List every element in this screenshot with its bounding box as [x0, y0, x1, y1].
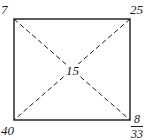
label-bottom-left: 40 — [1, 124, 14, 137]
label-center: 15 — [66, 64, 79, 77]
fraction-denominator: 33 — [131, 127, 143, 140]
fraction-numerator: 8 — [131, 113, 143, 127]
label-top-left: 7 — [1, 3, 8, 16]
label-top-right: 25 — [130, 3, 143, 16]
label-bottom-right-fraction: 8 33 — [131, 113, 143, 140]
